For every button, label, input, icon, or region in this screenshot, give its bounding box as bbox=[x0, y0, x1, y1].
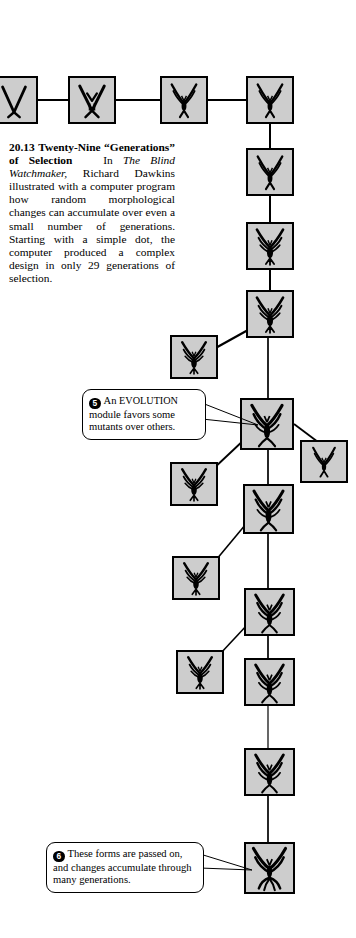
callout-5-text-before: An bbox=[104, 395, 120, 406]
biomorph-box bbox=[243, 484, 294, 534]
biomorph-box bbox=[176, 650, 224, 694]
biomorph-box bbox=[160, 76, 208, 124]
figure-number: 20.13 bbox=[9, 141, 35, 153]
biomorph-box bbox=[172, 556, 220, 600]
callout-5: 5An EVOLUTION module favors some mutants… bbox=[82, 389, 206, 440]
biomorph-box bbox=[170, 462, 218, 506]
biomorph-box bbox=[68, 76, 116, 124]
caption-body: Richard Dawkins illustrated with a compu… bbox=[9, 167, 175, 284]
callout-5-badge: 5 bbox=[89, 398, 101, 410]
figure-caption: 20.13 Twenty-Nine “Generations” of Selec… bbox=[9, 141, 175, 285]
callout-6-tail bbox=[198, 848, 254, 882]
callout-6-text: These forms are passed on, and changes a… bbox=[53, 848, 192, 885]
biomorph-box bbox=[170, 335, 218, 379]
biomorph-box bbox=[246, 290, 294, 338]
biomorph-box bbox=[246, 222, 294, 270]
biomorph-box bbox=[300, 440, 348, 483]
callout-6: 6These forms are passed on, and changes … bbox=[46, 842, 204, 893]
biomorph-box bbox=[246, 76, 294, 124]
callout-6-badge: 6 bbox=[53, 851, 65, 863]
biomorph-box bbox=[244, 588, 295, 636]
biomorph-box bbox=[244, 748, 295, 796]
caption-leadin: In bbox=[103, 154, 113, 166]
callout-5-tail bbox=[200, 395, 260, 435]
callout-5-smallcaps: EVOLUTION bbox=[119, 395, 178, 406]
biomorph-box bbox=[0, 76, 38, 124]
biomorph-box bbox=[244, 658, 295, 706]
biomorph-box bbox=[246, 148, 294, 196]
callout-5-text-after: module favors some mutants over others. bbox=[89, 409, 175, 432]
figure-canvas: 20.13 Twenty-Nine “Generations” of Selec… bbox=[0, 0, 356, 938]
